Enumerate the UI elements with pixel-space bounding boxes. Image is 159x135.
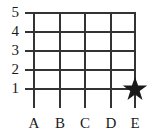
grid-line-horizontal-3 — [25, 50, 136, 52]
grid-line-horizontal-5 — [25, 12, 136, 14]
grid-line-vertical-c — [84, 12, 86, 108]
grid-line-horizontal-4 — [25, 31, 136, 33]
x-axis-label-e: E — [125, 116, 145, 131]
y-axis-label-1: 1 — [5, 81, 19, 96]
coordinate-grid-figure: 5 4 3 2 1 A B C D E — [0, 0, 159, 135]
y-axis-label-4: 4 — [5, 24, 19, 39]
y-axis-label-5: 5 — [5, 5, 19, 20]
grid-line-vertical-a — [33, 12, 35, 108]
x-axis-label-b: B — [50, 116, 70, 131]
x-axis-label-d: D — [101, 116, 121, 131]
x-axis-label-c: C — [75, 116, 95, 131]
grid-line-horizontal-2 — [25, 69, 136, 71]
y-axis-label-3: 3 — [5, 43, 19, 58]
star-icon — [122, 76, 148, 102]
grid-line-vertical-b — [59, 12, 61, 108]
grid-line-horizontal-1 — [25, 88, 136, 90]
x-axis-label-a: A — [24, 116, 44, 131]
y-axis-label-2: 2 — [5, 62, 19, 77]
grid-line-vertical-d — [110, 12, 112, 108]
